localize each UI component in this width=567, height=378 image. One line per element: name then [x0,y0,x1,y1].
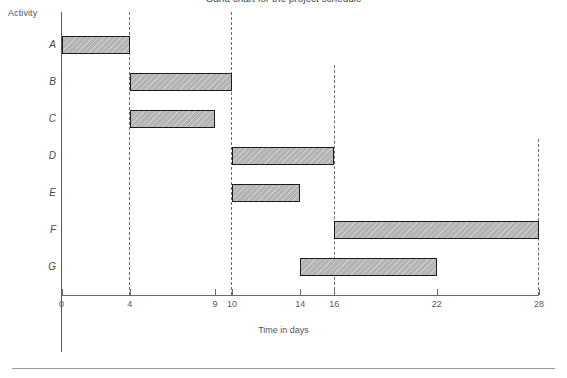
row-label-e: E [34,187,56,198]
x-tick-22 [437,289,438,295]
x-tick-label-0: 0 [59,299,64,309]
row-label-d: D [34,150,56,161]
footer-divider [12,368,555,369]
x-tick-label-14: 14 [295,299,305,309]
gantt-bar-e [232,184,300,202]
x-tick-28 [539,289,540,295]
gantt-bar-d [232,147,334,165]
row-label-g: G [34,261,56,272]
x-tick-10 [232,289,233,295]
row-label-f: F [34,224,56,235]
x-tick-label-10: 10 [227,299,237,309]
x-tick-label-22: 22 [432,299,442,309]
guide-line-day-28 [538,139,539,295]
x-tick-16 [334,289,335,295]
gantt-bar-a [62,36,130,54]
x-tick-label-16: 16 [329,299,339,309]
row-label-c: C [34,113,56,124]
x-tick-0 [62,289,63,295]
x-tick-4 [130,289,131,295]
x-tick-9 [215,289,216,295]
gantt-bar-f [334,221,539,239]
x-tick-label-9: 9 [212,299,217,309]
x-tick-label-28: 28 [534,299,544,309]
x-tick-14 [300,289,301,295]
x-tick-label-4: 4 [127,299,132,309]
x-axis-line [61,295,539,296]
row-label-b: B [34,76,56,87]
gantt-bar-g [300,258,436,276]
guide-line-day-4 [129,12,130,295]
x-axis-title: Time in days [0,325,567,335]
chart-title: Gantt chart for the project schedule [0,0,567,4]
row-label-a: A [34,39,56,50]
gantt-bar-b [130,73,232,91]
gantt-bar-c [130,110,215,128]
y-axis-title: Activity [8,8,37,18]
gantt-chart: Gantt chart for the project schedule Act… [0,0,567,378]
